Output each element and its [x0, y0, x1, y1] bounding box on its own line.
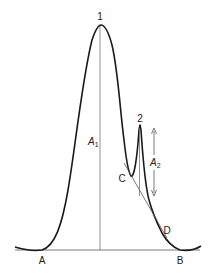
peak2-label: 2 [137, 113, 143, 124]
point-b-label: B [177, 255, 184, 266]
peak-area-diagram: 1 2 A1 A2 A B C D [0, 0, 218, 277]
point-a-label: A [39, 255, 46, 266]
peak1-label: 1 [97, 11, 103, 22]
chromatogram-curve [15, 25, 201, 250]
area2-label: A2 [149, 157, 161, 169]
point-c-label: C [118, 173, 125, 184]
point-d-label: D [163, 225, 170, 236]
area1-label: A1 [87, 136, 99, 148]
